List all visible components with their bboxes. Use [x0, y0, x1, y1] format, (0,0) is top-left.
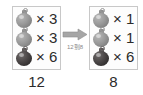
right-group-total: 8	[89, 73, 138, 90]
left-row-1: × 3	[14, 9, 61, 28]
right-ornament-group: × 1 × 1 × 6	[89, 6, 138, 70]
silver-ornament-icon	[93, 29, 110, 47]
left-ornament-group: × 3 × 3 × 6	[12, 6, 61, 70]
right-row-2: × 1	[91, 28, 138, 47]
left-group-total: 12	[12, 73, 61, 90]
arrow-caption: 12到8	[62, 42, 88, 51]
left-row-2: × 3	[14, 28, 61, 47]
silver-ornament-icon	[93, 10, 110, 28]
right-multiplier-2: × 1	[113, 30, 134, 45]
silver-ornament-icon	[16, 29, 33, 47]
left-multiplier-3: × 6	[36, 49, 57, 64]
silver-ornament-icon	[16, 10, 33, 28]
right-row-3: × 6	[91, 47, 138, 66]
right-arrow-icon	[62, 28, 88, 42]
right-row-1: × 1	[91, 9, 138, 28]
left-multiplier-2: × 3	[36, 30, 57, 45]
transformation-arrow: 12到8	[62, 28, 88, 52]
right-multiplier-3: × 6	[113, 49, 134, 64]
right-multiplier-1: × 1	[113, 11, 134, 26]
dark-ornament-icon	[93, 48, 110, 66]
left-row-3: × 6	[14, 47, 61, 66]
dark-ornament-icon	[16, 48, 33, 66]
ornament-comparison-diagram: × 3 × 3 × 6 12 12到8 × 1	[0, 0, 143, 95]
left-multiplier-1: × 3	[36, 11, 57, 26]
